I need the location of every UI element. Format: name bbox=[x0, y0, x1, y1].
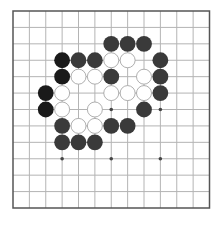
white-stone[interactable] bbox=[55, 102, 70, 117]
black-stone[interactable] bbox=[87, 52, 103, 68]
white-stone[interactable] bbox=[137, 86, 152, 101]
white-stone[interactable] bbox=[104, 86, 119, 101]
star-point bbox=[159, 108, 163, 112]
black-stone[interactable] bbox=[71, 52, 87, 68]
white-stone[interactable] bbox=[87, 69, 102, 84]
white-stone[interactable] bbox=[55, 86, 70, 101]
black-stone[interactable] bbox=[38, 85, 54, 101]
black-stone[interactable] bbox=[103, 118, 119, 134]
black-stone[interactable] bbox=[87, 134, 103, 150]
go-board-canvas[interactable] bbox=[0, 0, 223, 225]
white-stone[interactable] bbox=[120, 86, 135, 101]
star-point bbox=[109, 108, 113, 112]
black-stone[interactable] bbox=[136, 102, 152, 118]
black-stone[interactable] bbox=[103, 36, 119, 52]
black-stone[interactable] bbox=[152, 69, 168, 85]
black-stone[interactable] bbox=[120, 36, 136, 52]
black-stone[interactable] bbox=[120, 118, 136, 134]
go-board[interactable] bbox=[0, 0, 223, 225]
white-stone[interactable] bbox=[137, 69, 152, 84]
black-stone[interactable] bbox=[152, 85, 168, 101]
star-point bbox=[109, 157, 113, 161]
black-stone[interactable] bbox=[71, 134, 87, 150]
star-point bbox=[60, 157, 64, 161]
black-stone[interactable] bbox=[38, 102, 54, 118]
white-stone[interactable] bbox=[71, 69, 86, 84]
black-stone[interactable] bbox=[54, 69, 70, 85]
black-stone[interactable] bbox=[103, 69, 119, 85]
white-stone[interactable] bbox=[87, 102, 102, 117]
black-stone[interactable] bbox=[54, 52, 70, 68]
star-point bbox=[159, 157, 163, 161]
black-stone[interactable] bbox=[136, 36, 152, 52]
black-stone[interactable] bbox=[54, 134, 70, 150]
black-stone[interactable] bbox=[54, 118, 70, 134]
black-stone[interactable] bbox=[152, 52, 168, 68]
white-stone[interactable] bbox=[87, 118, 102, 133]
white-stone[interactable] bbox=[71, 118, 86, 133]
white-stone[interactable] bbox=[120, 53, 135, 68]
white-stone[interactable] bbox=[104, 53, 119, 68]
